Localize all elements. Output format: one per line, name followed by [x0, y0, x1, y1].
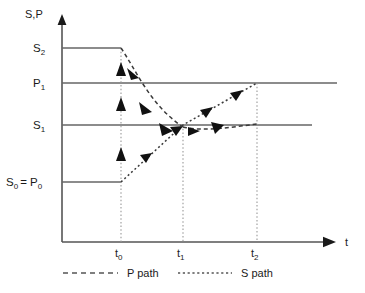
y-level-labels: S2 P1 S1 S0= P0: [6, 42, 46, 191]
up-arrow-1: [116, 62, 126, 76]
s-path-arrowhead-1: [140, 153, 152, 163]
up-arrow-3: [116, 147, 126, 161]
p-path-arrowhead-2: [139, 102, 152, 115]
legend: P path S path: [63, 267, 273, 279]
y-axis-label: S,P: [25, 8, 43, 20]
legend-label-s-path: S path: [241, 267, 273, 279]
level-label-S0P0: S0= P0: [6, 176, 43, 191]
p-path-arrowhead-4: [211, 122, 224, 134]
tick-label-t2: t2: [251, 247, 259, 262]
x-tick-labels: t0 t1 t2: [115, 247, 259, 262]
s-path-arrowhead-4: [230, 90, 243, 101]
legend-label-p-path: P path: [127, 267, 159, 279]
level-lines-group: [62, 48, 337, 182]
up-arrow-2: [116, 97, 126, 111]
vertical-guides-group: [121, 48, 257, 242]
chart-figure: S,P t S2 P1 S1 S0= P0 t0: [0, 0, 365, 293]
x-axis-label: t: [345, 236, 348, 248]
tick-label-t0: t0: [115, 247, 123, 262]
level-label-S1: S1: [33, 119, 46, 134]
y-axis-arrowhead: [58, 14, 67, 25]
level-label-P1: P1: [33, 77, 46, 92]
level-label-S2: S2: [33, 42, 46, 57]
tick-label-t1: t1: [177, 247, 185, 262]
s-path-arrowhead-3: [200, 107, 213, 118]
x-axis-arrowhead: [323, 237, 336, 247]
chart-svg: S,P t S2 P1 S1 S0= P0 t0: [0, 0, 365, 293]
p-path-descending: [121, 48, 183, 127]
